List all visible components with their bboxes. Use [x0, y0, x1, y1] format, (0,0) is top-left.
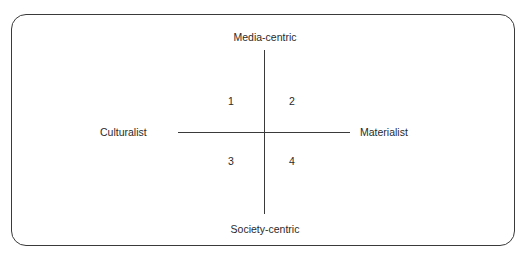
axis-label-society-centric: Society-centric	[231, 223, 300, 235]
axis-label-culturalist: Culturalist	[100, 126, 147, 138]
axis-label-materialist: Materialist	[360, 126, 408, 138]
diagram-frame	[11, 14, 515, 246]
quadrant-label-3: 3	[228, 155, 234, 167]
quadrant-label-2: 2	[289, 95, 295, 107]
quadrant-label-1: 1	[228, 95, 234, 107]
horizontal-axis-line	[178, 132, 350, 133]
axis-label-media-centric: Media-centric	[233, 31, 296, 43]
quadrant-label-4: 4	[289, 155, 295, 167]
